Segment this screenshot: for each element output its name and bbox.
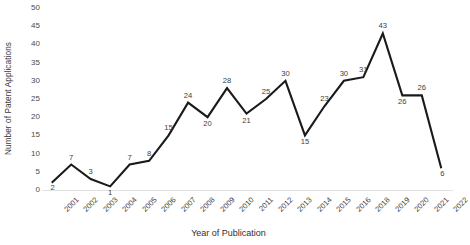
x-axis-title: Year of Publication <box>0 228 457 238</box>
plot-area: 27317815242028212530152330314326266 <box>42 8 451 190</box>
x-axis-tick-2019: 2019 <box>394 196 411 213</box>
data-label-2002: 7 <box>69 154 73 162</box>
data-label-2003: 3 <box>89 168 93 176</box>
y-axis-tick-15: 15 <box>16 131 40 139</box>
y-axis-tick-5: 5 <box>16 168 40 176</box>
x-axis-tick-2013: 2013 <box>296 196 313 213</box>
x-axis-tick-2001: 2001 <box>63 196 80 213</box>
x-axis-tick-2007: 2007 <box>180 196 197 213</box>
x-axis-tick-2020: 2020 <box>413 196 430 213</box>
y-axis-tick-20: 20 <box>16 113 40 121</box>
x-axis-tick-2008: 2008 <box>199 196 216 213</box>
data-label-2013: 30 <box>281 70 289 78</box>
y-axis-title: Number of Patent Applications <box>5 41 14 154</box>
x-axis-tick-labels: 2001200220032004200520062007200820092010… <box>42 196 451 230</box>
data-label-2007: 15 <box>164 125 172 133</box>
x-axis-tick-2012: 2012 <box>277 196 294 213</box>
x-axis-tick-2021: 2021 <box>433 196 450 213</box>
y-axis-tick-0: 0 <box>16 186 40 194</box>
y-axis-tick-10: 10 <box>16 150 40 158</box>
data-label-2018: 31 <box>359 67 367 75</box>
x-axis-tick-2010: 2010 <box>238 196 255 213</box>
y-axis-tick-25: 25 <box>16 95 40 103</box>
data-label-2008: 24 <box>184 92 192 100</box>
data-label-2001: 2 <box>51 184 55 192</box>
x-axis-tick-2022: 2022 <box>452 196 469 213</box>
x-axis-tick-2018: 2018 <box>374 196 391 213</box>
x-axis-tick-2009: 2009 <box>218 196 235 213</box>
y-axis-tick-40: 40 <box>16 40 40 48</box>
data-label-2012: 25 <box>262 88 270 96</box>
x-axis-tick-2011: 2011 <box>257 196 274 213</box>
series-line <box>42 8 451 190</box>
data-label-2019: 43 <box>379 23 387 31</box>
x-axis-tick-2003: 2003 <box>102 196 119 213</box>
x-axis-tick-2006: 2006 <box>160 196 177 213</box>
x-axis-tick-2004: 2004 <box>121 196 138 213</box>
y-axis-tick-50: 50 <box>16 4 40 12</box>
x-axis-baseline <box>42 190 453 191</box>
x-axis-tick-2016: 2016 <box>355 196 372 213</box>
data-label-2014: 15 <box>301 139 309 147</box>
y-axis-tick-labels: 05101520253035404550 <box>14 0 40 196</box>
x-axis-tick-2005: 2005 <box>141 196 158 213</box>
data-label-2011: 21 <box>242 117 250 125</box>
data-label-2010: 28 <box>223 77 231 85</box>
data-label-2006: 8 <box>147 150 151 158</box>
data-label-2015: 23 <box>320 96 328 104</box>
data-label-2005: 7 <box>128 154 132 162</box>
y-axis-tick-35: 35 <box>16 59 40 67</box>
y-axis-tick-30: 30 <box>16 77 40 85</box>
x-axis-tick-2002: 2002 <box>82 196 99 213</box>
data-label-2022: 6 <box>440 171 444 179</box>
data-label-2021: 26 <box>418 85 426 93</box>
y-axis-tick-45: 45 <box>16 22 40 30</box>
data-label-2009: 20 <box>203 121 211 129</box>
x-axis-tick-2014: 2014 <box>316 196 333 213</box>
x-axis-tick-2015: 2015 <box>335 196 352 213</box>
data-label-2020: 26 <box>398 99 406 107</box>
data-label-2016: 30 <box>340 70 348 78</box>
